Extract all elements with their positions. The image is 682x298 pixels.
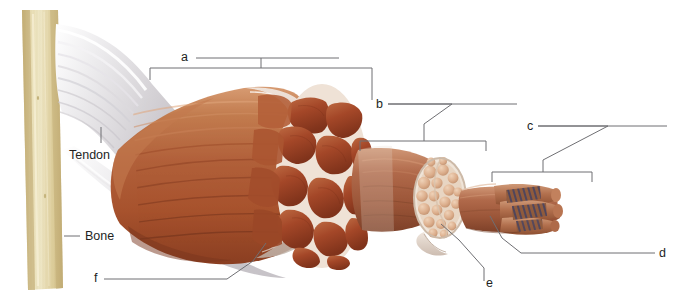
label-tendon: Tendon xyxy=(69,149,110,162)
label-bone: Bone xyxy=(85,230,114,243)
label-e: e xyxy=(486,277,493,290)
label-d: d xyxy=(659,247,666,260)
myofibrils xyxy=(494,184,563,235)
figure-canvas: a b c d e f Tendon Bone xyxy=(0,0,682,298)
muscle-fiber-with-myofibrils xyxy=(459,184,563,235)
label-c: c xyxy=(527,120,533,133)
muscle-fiber-cross-sections xyxy=(414,157,466,238)
label-f: f xyxy=(94,272,97,285)
label-b: b xyxy=(376,98,383,111)
label-a: a xyxy=(181,51,188,64)
